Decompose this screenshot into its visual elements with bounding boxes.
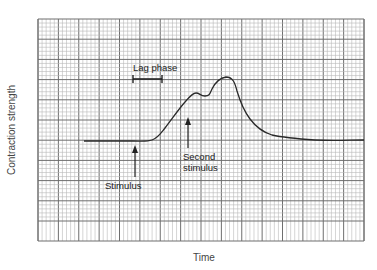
stimulus-label: Stimulus [105,180,141,191]
second-stimulus-label: Second stimulus [183,151,218,173]
lag-phase-label: Lag phase [133,62,177,73]
stimulus-arrow [132,145,138,177]
x-axis-label: Time [193,252,215,263]
second-stimulus-line2: stimulus [183,162,218,173]
lag-phase-bar [133,75,162,83]
chart-canvas [0,0,377,270]
contraction-curve [84,77,364,141]
y-axis-label: Contraction strength [6,85,17,175]
second-stimulus-line1: Second [183,151,218,162]
graph-paper-grid [38,19,364,241]
second-stimulus-arrow [185,117,191,148]
